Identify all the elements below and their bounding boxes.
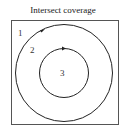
region-label-1: 1 [18, 28, 23, 38]
outer-frame [12, 21, 119, 125]
inner-arrow-icon [62, 47, 66, 51]
region-label-3: 3 [60, 68, 65, 78]
region-label-2: 2 [30, 45, 35, 55]
coverage-diagram: 1 2 3 [0, 0, 126, 135]
